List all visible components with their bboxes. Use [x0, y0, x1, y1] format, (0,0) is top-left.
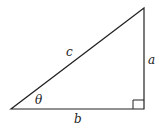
side-a-label: a	[148, 53, 155, 67]
angle-theta-label: θ	[35, 93, 43, 107]
triangle-diagram: c a θ b	[0, 0, 161, 128]
hypotenuse-label: c	[66, 45, 73, 59]
right-triangle	[11, 8, 144, 109]
right-angle-marker	[133, 100, 144, 109]
side-b-label: b	[74, 112, 82, 126]
